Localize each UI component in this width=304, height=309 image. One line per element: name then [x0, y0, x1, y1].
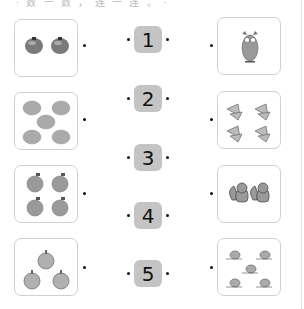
card-tomatoes — [14, 19, 78, 77]
page-margin-line — [301, 0, 302, 309]
butterfly-icon — [218, 92, 282, 150]
number-2: 2 — [134, 85, 162, 112]
number-left-dot-1[interactable] — [127, 38, 130, 41]
number-3: 3 — [134, 144, 162, 171]
left-dot-1[interactable] — [83, 44, 86, 47]
number-left-dot-5[interactable] — [127, 272, 130, 275]
number-right-dot-5[interactable] — [166, 272, 169, 275]
right-dot-2[interactable] — [210, 118, 213, 121]
instruction-text: · 数 一 数 ， 连 一 连 。 · — [16, 0, 169, 9]
number-right-dot-3[interactable] — [166, 156, 169, 159]
left-dot-2[interactable] — [83, 118, 86, 121]
card-onions — [14, 238, 78, 296]
number-right-dot-2[interactable] — [166, 97, 169, 100]
card-squirrels — [217, 165, 281, 223]
number-right-dot-4[interactable] — [166, 214, 169, 217]
card-snails — [217, 238, 281, 296]
number-left-dot-3[interactable] — [127, 156, 130, 159]
card-peaches — [14, 165, 78, 223]
owl-icon — [218, 18, 282, 76]
number-right-dot-1[interactable] — [166, 38, 169, 41]
number-left-dot-2[interactable] — [127, 97, 130, 100]
left-dot-3[interactable] — [83, 192, 86, 195]
tomato-icon — [15, 20, 79, 78]
card-owl — [217, 17, 281, 75]
onion-icon — [15, 239, 79, 297]
left-dot-4[interactable] — [83, 266, 86, 269]
right-dot-3[interactable] — [210, 192, 213, 195]
number-4: 4 — [134, 202, 162, 229]
squirrel-icon — [218, 166, 282, 224]
peach-icon — [15, 166, 79, 224]
right-dot-1[interactable] — [210, 44, 213, 47]
card-pumpkins — [14, 92, 78, 150]
snail-icon — [218, 239, 282, 297]
card-butterflies — [217, 91, 281, 149]
number-1: 1 — [134, 26, 162, 53]
number-left-dot-4[interactable] — [127, 214, 130, 217]
pumpkin-icon — [15, 93, 79, 151]
number-5: 5 — [134, 260, 162, 287]
right-dot-4[interactable] — [210, 266, 213, 269]
